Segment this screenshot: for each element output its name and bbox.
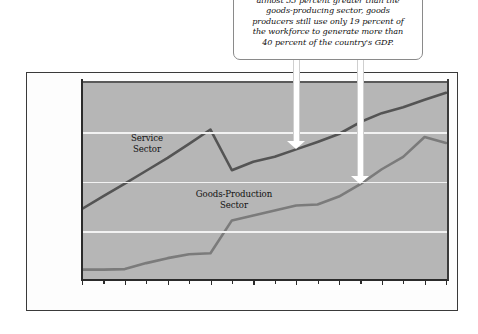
x-tick-minor-1997 (360, 280, 361, 284)
x-axis-line (81, 279, 449, 281)
arrow-to-goods-1997-head (351, 176, 369, 184)
x-tick-minor-1989 (189, 280, 190, 284)
x-tick-88 (168, 280, 169, 285)
plot-area (82, 81, 448, 280)
series-label-goods: Goods-Production Sector (178, 189, 290, 210)
arrow-to-goods-1997-shaft (357, 60, 364, 176)
x-tick-minor-1987 (146, 280, 147, 284)
x-tick-96 (339, 280, 340, 285)
x-tick-98 (382, 280, 383, 285)
x-tick-minor-1985 (103, 280, 104, 284)
series-label-service: Service Sector (114, 133, 180, 154)
x-tick-84 (82, 280, 83, 285)
x-tick-minor-1991 (232, 280, 233, 284)
callout-balloon: almost 33 percent greater than the goods… (233, 0, 423, 60)
x-tick-86 (125, 280, 126, 285)
chart-page: '84'86'88'90'92'94'96'98'00'01$1,000$2,0… (0, 0, 478, 334)
callout-text: almost 33 percent greater than the goods… (239, 0, 417, 47)
x-tick-01 (446, 280, 447, 285)
x-tick-94 (296, 280, 297, 285)
y-axis-line (81, 79, 83, 280)
arrow-to-service-1994-head (287, 141, 305, 149)
arrow-to-service-1994-shaft (293, 60, 300, 141)
gridline-3000 (82, 182, 448, 184)
x-tick-00 (425, 280, 426, 285)
plot-right-edge (447, 79, 449, 280)
x-tick-90 (211, 280, 212, 285)
x-tick-minor-1999 (403, 280, 404, 284)
gridline-2000 (82, 231, 448, 233)
x-tick-92 (253, 280, 254, 285)
x-tick-minor-1995 (318, 280, 319, 284)
plot-inner (82, 83, 448, 280)
x-tick-minor-1993 (275, 280, 276, 284)
